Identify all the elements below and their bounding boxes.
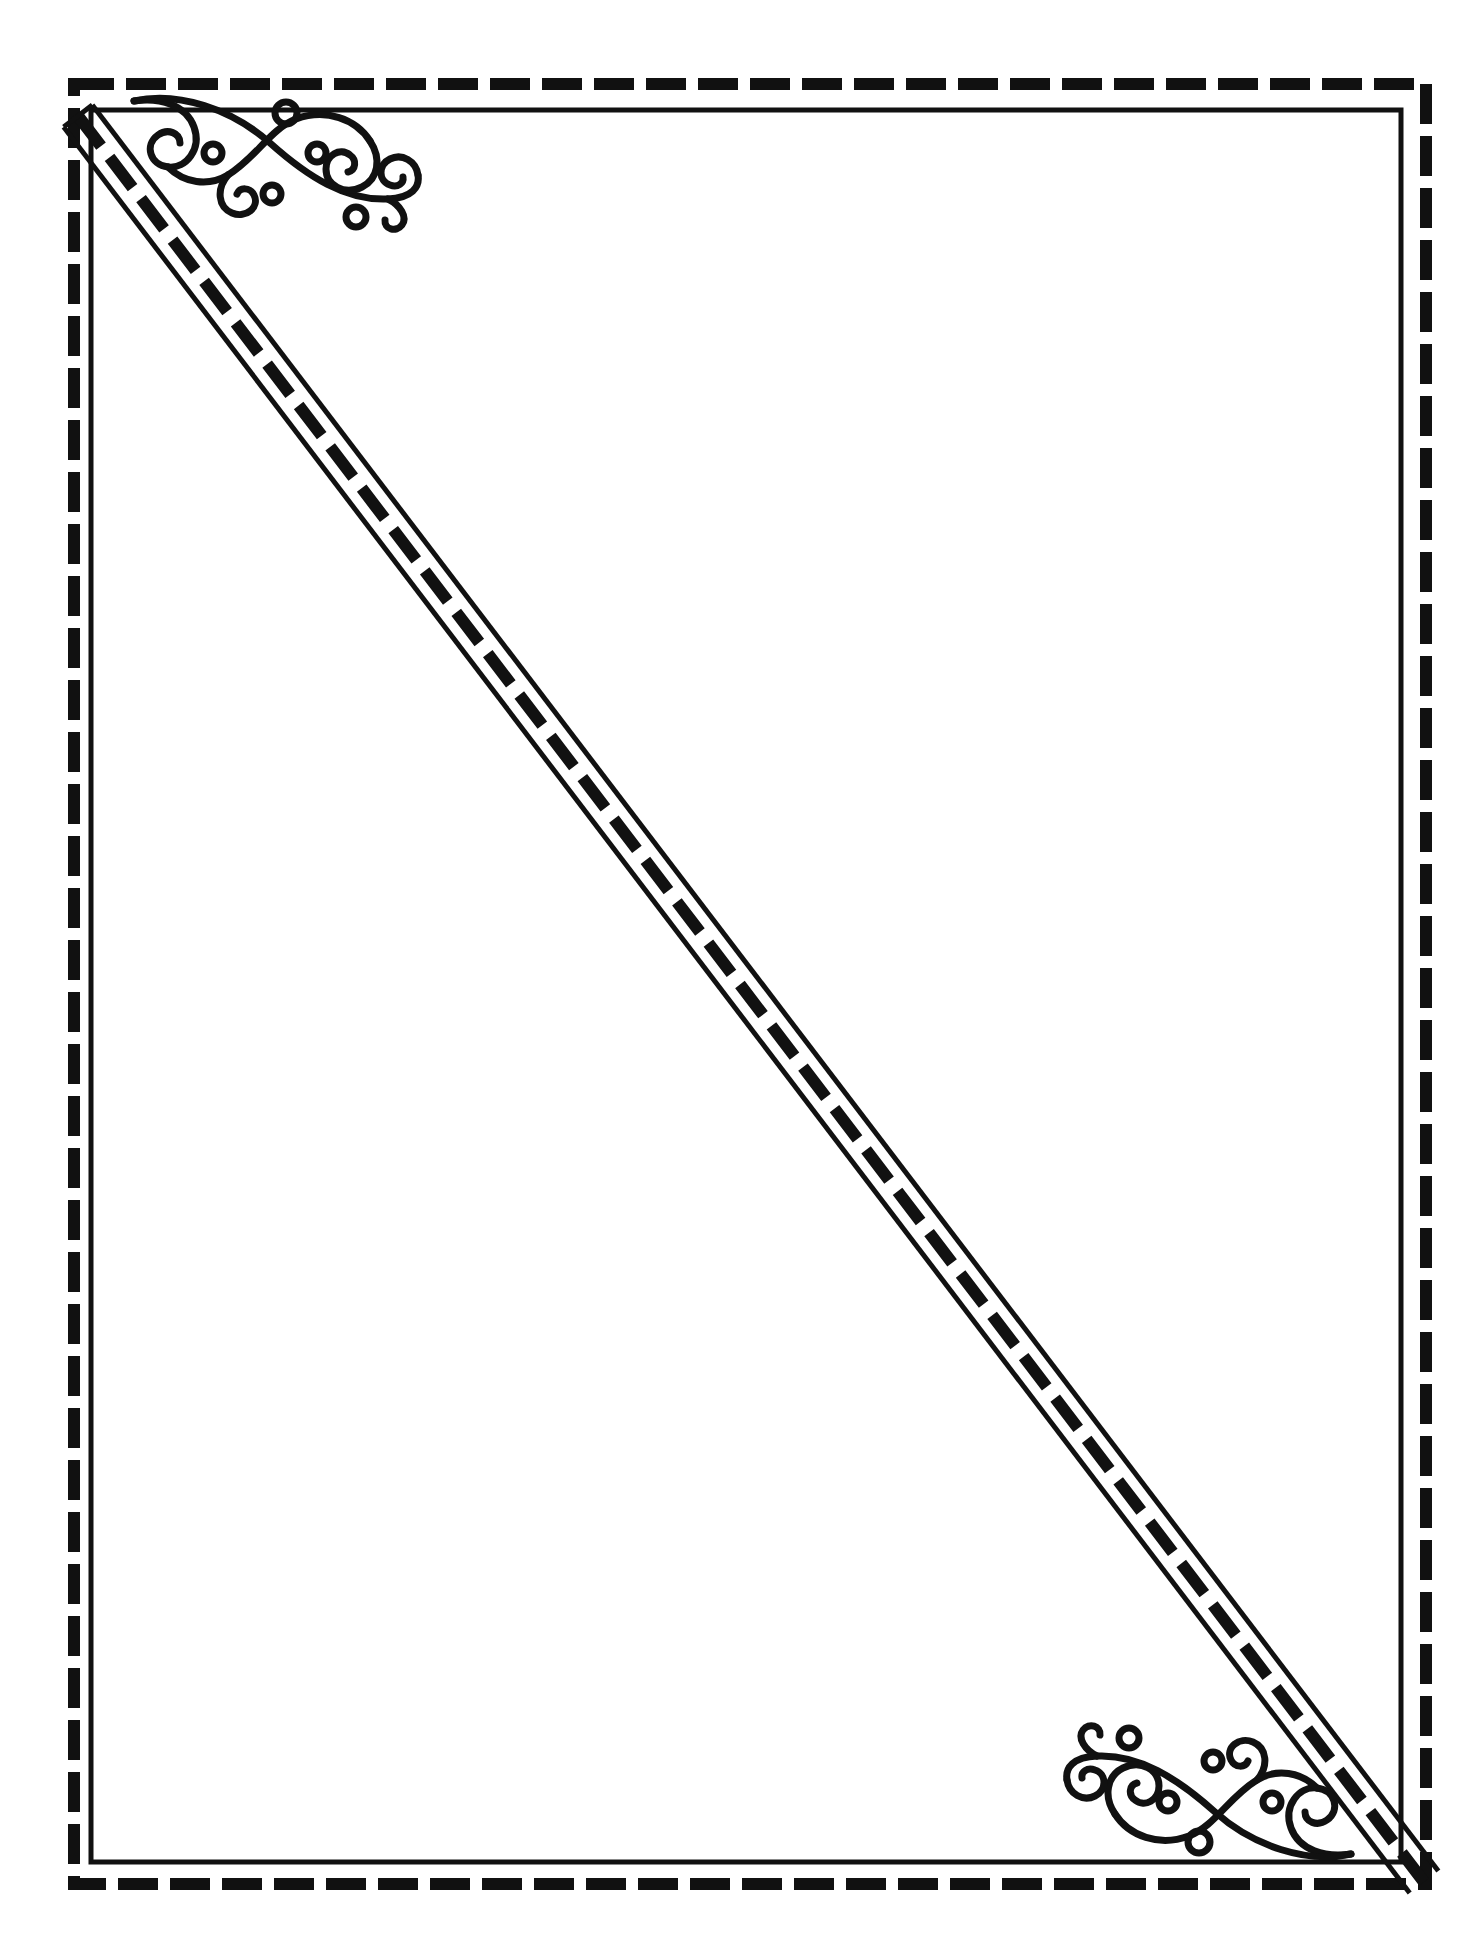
diagonal-divider <box>64 105 1439 1893</box>
decorative-frame-artwork <box>0 0 1482 1939</box>
diagonal-rule-upper <box>92 105 1438 1871</box>
page-canvas: Decorative Diagonal Frame Border <box>0 0 1482 1939</box>
diagonal-rule-dashed <box>78 116 1424 1882</box>
flourish-top-left <box>134 98 418 229</box>
flourish-bottom-right <box>1067 1726 1351 1857</box>
diagonal-rule-lower <box>64 127 1410 1893</box>
